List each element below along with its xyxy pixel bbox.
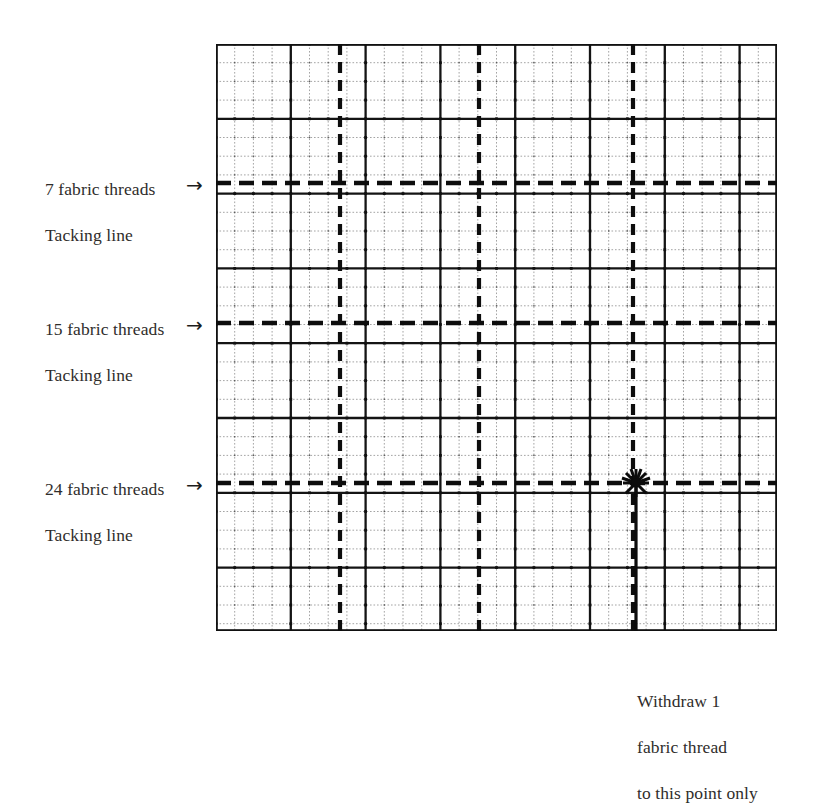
label-tacking-line-24-line2: Tacking line	[45, 524, 164, 547]
label-tacking-line-7: 7 fabric threads Tacking line	[45, 155, 155, 270]
label-withdraw-note: Withdraw 1 fabric thread to this point o…	[637, 667, 758, 807]
label-tacking-line-7-line2: Tacking line	[45, 224, 155, 247]
label-withdraw-note-line2: fabric thread	[637, 736, 758, 759]
label-tacking-line-15-line1: 15 fabric threads	[45, 318, 164, 341]
label-tacking-line-15: 15 fabric threads Tacking line	[45, 295, 164, 410]
label-tacking-line-24: 24 fabric threads Tacking line	[45, 455, 164, 570]
fabric-grid	[216, 44, 777, 631]
label-tacking-line-15-line2: Tacking line	[45, 364, 164, 387]
fabric-grid-svg	[216, 44, 777, 631]
arrow-right-icon-7: →	[186, 175, 203, 195]
label-tacking-line-7-line1: 7 fabric threads	[45, 178, 155, 201]
arrow-right-icon-24: →	[186, 475, 203, 495]
arrow-right-icon-15: →	[186, 315, 203, 335]
label-withdraw-note-line3: to this point only	[637, 782, 758, 805]
label-tacking-line-24-line1: 24 fabric threads	[45, 478, 164, 501]
label-withdraw-note-line1: Withdraw 1	[637, 690, 758, 713]
